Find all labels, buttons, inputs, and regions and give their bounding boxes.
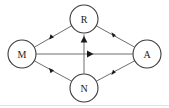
edge-line-n-a [97, 61, 135, 81]
edge-group [35, 26, 135, 81]
arrowhead-n-r [81, 36, 88, 43]
node-label-n: N [80, 83, 87, 94]
diagram-canvas: M R N A [0, 0, 169, 108]
edge-line-r-a [97, 26, 135, 47]
directed-graph: M R N A [0, 0, 169, 108]
node-r[interactable]: R [70, 5, 98, 33]
node-a[interactable]: A [133, 40, 161, 68]
node-m[interactable]: M [8, 40, 36, 68]
edge-m-to-r [35, 26, 72, 47]
edge-r-to-a [97, 26, 135, 47]
edge-n-to-a [97, 61, 135, 81]
arrowhead-n-a [110, 69, 117, 75]
node-n[interactable]: N [70, 74, 98, 102]
node-label-a: A [143, 49, 151, 60]
edge-m-to-n [35, 61, 72, 81]
node-label-m: M [18, 49, 27, 60]
arrowhead-m-a [87, 51, 94, 58]
node-label-r: R [81, 14, 88, 25]
